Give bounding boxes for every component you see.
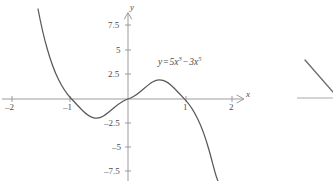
x-tick-label-neg2: –2 bbox=[5, 103, 14, 112]
y-tick-label-5: 5 bbox=[116, 46, 121, 55]
equation-equals: = bbox=[162, 57, 169, 67]
y-axis-label: y bbox=[130, 3, 134, 12]
x-tick-label-neg1: –1 bbox=[63, 103, 72, 112]
x-tick-label-2: 2 bbox=[229, 103, 234, 112]
x-axis-label: x bbox=[246, 90, 250, 99]
equation-term2-exponent: 5 bbox=[198, 55, 201, 62]
adjacent-figure-fragment bbox=[297, 60, 333, 98]
y-tick-label-neg5: –5 bbox=[112, 143, 121, 152]
function-plot-svg bbox=[0, 0, 333, 181]
equation-annotation: y=5x3−3x5 bbox=[158, 58, 201, 68]
y-tick-label-neg2p5: –2.5 bbox=[104, 119, 120, 128]
figure-container: y x 7.5 5 2.5 –2.5 –5 –7.5 –2 –1 1 2 y=5… bbox=[0, 0, 333, 181]
y-tick-label-2p5: 2.5 bbox=[108, 70, 119, 79]
y-tick-label-neg7p5: –7.5 bbox=[104, 167, 120, 176]
fragment-diagonal-stroke bbox=[305, 60, 333, 92]
y-tick-label-7p5: 7.5 bbox=[108, 21, 119, 30]
x-tick-label-1: 1 bbox=[183, 103, 188, 112]
